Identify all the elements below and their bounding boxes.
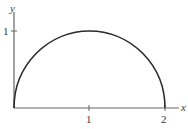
x-tick-label-2: 2 <box>161 113 167 125</box>
x-tick-label-1: 1 <box>86 113 92 125</box>
semicircle-curve <box>14 31 165 108</box>
x-axis-label: x <box>180 101 186 113</box>
y-axis-label: y <box>9 2 15 14</box>
y-tick-label-1: 1 <box>3 25 9 37</box>
semicircle-chart: y 1 1 2 x <box>0 0 188 129</box>
